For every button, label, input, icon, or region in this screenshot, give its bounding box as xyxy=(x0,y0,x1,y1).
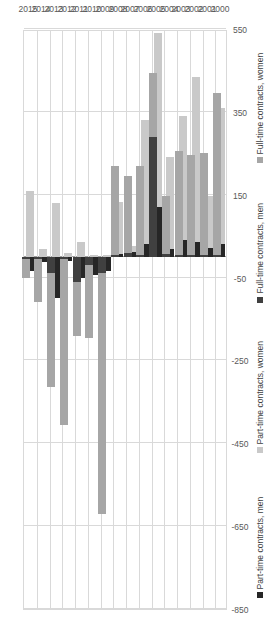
value-tick-text: 550 xyxy=(233,25,247,35)
value-tick-text: -50 xyxy=(234,274,246,284)
legend-label: Part-time contracts, men xyxy=(255,497,265,590)
bar-segment-full-time-men-2000 xyxy=(213,255,221,257)
bar-segment-full-time-women-2006 xyxy=(136,166,144,255)
legend-label: Full-time contracts, women xyxy=(255,53,265,155)
bar-segment-full-time-men-2002 xyxy=(187,255,195,257)
bar-full-time-2009 xyxy=(98,31,106,609)
legend-label: Part-time contracts, women xyxy=(255,341,265,444)
legend-swatch-icon xyxy=(257,447,263,453)
bar-segment-full-time-men-2011 xyxy=(73,257,81,282)
bar-full-time-2007 xyxy=(124,31,132,609)
value-tick-label: -850 xyxy=(235,595,245,625)
bar-segment-full-time-women-2007 xyxy=(124,176,132,253)
legend-swatch-icon xyxy=(257,592,263,598)
bar-segment-full-time-women-2004 xyxy=(162,196,170,254)
bar-segment-full-time-women-2015 xyxy=(22,259,30,278)
bar-chart: 550350150-50-250-450-650-850 20002001200… xyxy=(0,0,272,644)
category-label-2002: 2002 xyxy=(189,0,199,26)
legend-item-pt_men[interactable]: Part-time contracts, men xyxy=(254,497,265,599)
bar-segment-full-time-women-2005 xyxy=(149,73,157,137)
bar-full-time-2000 xyxy=(213,31,221,609)
category-label-2015: 2015 xyxy=(23,0,33,26)
plot-area xyxy=(23,30,227,610)
bar-full-time-2001 xyxy=(200,31,208,609)
bar-full-time-2010 xyxy=(85,31,93,609)
value-tick-label: -650 xyxy=(235,512,245,542)
category-label-2010: 2010 xyxy=(87,0,97,26)
bar-segment-full-time-men-2009 xyxy=(98,257,106,274)
value-tick-label: 550 xyxy=(235,15,245,45)
bar-segment-full-time-men-2008 xyxy=(111,255,119,257)
category-label-2006: 2006 xyxy=(138,0,148,26)
legend-swatch-icon xyxy=(257,157,263,163)
value-tick-text: -450 xyxy=(231,439,248,449)
bar-segment-full-time-women-2011 xyxy=(73,282,81,336)
bar-segment-full-time-women-2009 xyxy=(98,273,106,513)
bar-full-time-2005 xyxy=(149,31,157,609)
bar-segment-full-time-men-2004 xyxy=(162,254,170,257)
value-tick-label: -250 xyxy=(235,346,245,376)
rotated-chart-wrapper: 550350150-50-250-450-650-850 20002001200… xyxy=(0,0,272,644)
bar-segment-full-time-women-2012 xyxy=(60,259,68,425)
gridline xyxy=(24,28,226,29)
legend-label: Full-time contracts, men xyxy=(255,203,265,294)
bar-full-time-2008 xyxy=(111,31,119,609)
value-tick-label: -50 xyxy=(235,264,245,294)
value-tick-text: -650 xyxy=(231,522,248,532)
value-tick-text: 150 xyxy=(233,191,247,201)
bar-full-time-2006 xyxy=(136,31,144,609)
bar-full-time-2002 xyxy=(187,31,195,609)
bar-segment-full-time-men-2006 xyxy=(136,255,144,257)
bar-full-time-2015 xyxy=(22,31,30,609)
bar-full-time-2012 xyxy=(60,31,68,609)
bar-segment-full-time-men-2001 xyxy=(200,255,208,257)
legend-item-pt_women[interactable]: Part-time contracts, women xyxy=(254,341,265,453)
bar-full-time-2004 xyxy=(162,31,170,609)
bar-segment-full-time-men-2005 xyxy=(149,137,157,257)
bar-segment-full-time-men-2003 xyxy=(175,255,183,257)
bar-segment-full-time-women-2010 xyxy=(85,265,93,338)
bar-full-time-2003 xyxy=(175,31,183,609)
value-tick-label: -450 xyxy=(235,429,245,459)
bar-full-time-2014 xyxy=(34,31,42,609)
bar-full-time-2011 xyxy=(73,31,81,609)
bar-segment-full-time-women-2002 xyxy=(187,155,195,254)
bar-segment-full-time-women-2008 xyxy=(111,166,119,255)
chart-legend: Part-time contracts, menPart-time contra… xyxy=(252,30,272,610)
bar-segment-full-time-men-2010 xyxy=(85,257,93,265)
bar-segment-full-time-men-2007 xyxy=(124,253,132,257)
legend-swatch-icon xyxy=(257,297,263,303)
bar-segment-full-time-women-2013 xyxy=(47,273,55,387)
value-tick-label: 150 xyxy=(235,181,245,211)
value-tick-text: -250 xyxy=(231,356,248,366)
bar-full-time-2013 xyxy=(47,31,55,609)
bar-segment-full-time-women-2000 xyxy=(213,93,221,255)
bar-segment-full-time-women-2003 xyxy=(175,151,183,255)
bar-segment-full-time-women-2014 xyxy=(34,259,42,303)
value-tick-text: 350 xyxy=(233,108,247,118)
bar-segment-full-time-men-2013 xyxy=(47,257,55,274)
legend-item-ft_women[interactable]: Full-time contracts, women xyxy=(254,53,265,164)
value-tick-label: 350 xyxy=(235,98,245,128)
value-tick-text: -850 xyxy=(231,605,248,615)
bar-segment-full-time-women-2001 xyxy=(200,153,208,255)
category-label-text: 2015 xyxy=(19,4,38,14)
legend-item-ft_men[interactable]: Full-time contracts, men xyxy=(254,203,265,303)
category-label-2014: 2014 xyxy=(36,0,46,26)
